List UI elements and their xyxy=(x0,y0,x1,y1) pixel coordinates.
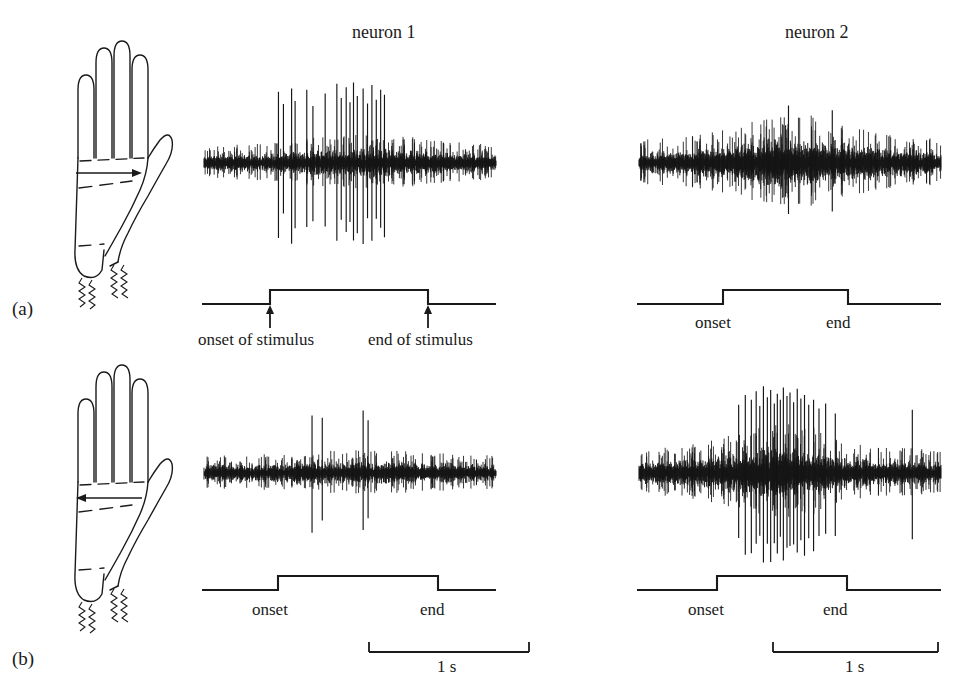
finger-little xyxy=(132,379,148,482)
event-arrows-svg xyxy=(200,304,500,330)
end-label-neuron2-panel-a: end xyxy=(826,313,851,333)
baseline-noise xyxy=(639,141,941,187)
finger-index xyxy=(78,75,94,158)
end-label-neuron2-panel-b: end xyxy=(823,600,848,620)
finger-index xyxy=(78,399,94,482)
wrist-hatching-right xyxy=(111,589,128,622)
stimulus-step-svg xyxy=(635,282,945,312)
scale-bar-svg xyxy=(366,640,541,658)
palm-crease-dashed-lower xyxy=(79,181,132,188)
onset-label-neuron2-panel-a: onset xyxy=(695,313,731,333)
onset-label-neuron1-panel-b: onset xyxy=(252,600,288,620)
scale-label-1s-left: 1 s xyxy=(437,657,456,677)
thumb-outline xyxy=(118,135,172,262)
scale-label-1s-right: 1 s xyxy=(845,657,864,677)
time-scale-bar-panel-b-left xyxy=(366,640,541,658)
spike-trace-neuron2-panel-a xyxy=(635,45,945,285)
end-of-stimulus-label: end of stimulus xyxy=(368,330,473,350)
wrist-hatching-right xyxy=(111,265,128,298)
palm-crease-dashed-lower xyxy=(79,505,132,512)
hand-diagram-panel-b xyxy=(48,362,198,662)
stimulus-step-svg xyxy=(635,568,945,598)
finger-middle xyxy=(96,372,112,482)
spike-trace-neuron2-panel-b xyxy=(635,360,945,570)
spike-trace-neuron1-panel-a xyxy=(200,45,500,285)
hand-outline-svg xyxy=(48,18,198,318)
finger-ring xyxy=(114,365,130,482)
trace-svg xyxy=(635,45,945,285)
end-label-neuron1-panel-b: end xyxy=(420,600,445,620)
column-title-neuron1: neuron 1 xyxy=(352,22,415,43)
onset-of-stimulus-label: onset of stimulus xyxy=(198,330,314,350)
spike-trace-neuron1-panel-b xyxy=(200,360,500,570)
palm-left-edge xyxy=(75,158,104,278)
palm-crease-dashed-wrist xyxy=(79,244,104,246)
trace-svg xyxy=(635,360,945,570)
finger-middle xyxy=(96,48,112,158)
trace-svg xyxy=(200,45,500,285)
stimulus-step-neuron2-panel-b xyxy=(635,568,945,598)
palm-crease-dashed-wrist xyxy=(79,568,104,570)
stimulus-step-neuron1-panel-b xyxy=(200,568,500,598)
wrist-hatching-left xyxy=(79,602,95,633)
panel-label-a: (a) xyxy=(12,298,33,320)
finger-ring xyxy=(114,41,130,158)
neuron-recording-figure: neuron 1 neuron 2 (a) (b) xyxy=(0,0,976,697)
palm-left-edge xyxy=(75,482,104,602)
onset-arrow-icon xyxy=(266,305,274,328)
onset-label-neuron2-panel-b: onset xyxy=(688,600,724,620)
stimulus-direction-arrow xyxy=(76,169,142,177)
time-scale-bar-panel-b-right xyxy=(770,640,950,658)
finger-little xyxy=(132,55,148,158)
column-title-neuron2: neuron 2 xyxy=(785,22,848,43)
hand-diagram-panel-a xyxy=(48,18,198,318)
stimulus-event-arrows-neuron1-panel-a xyxy=(200,304,500,330)
stimulus-direction-arrow xyxy=(76,494,142,502)
panel-label-b: (b) xyxy=(12,648,34,670)
thumb-outline xyxy=(118,459,172,586)
end-arrow-icon xyxy=(424,305,432,328)
scale-bar-svg xyxy=(770,640,950,658)
wrist-hatching-left xyxy=(79,278,95,309)
hand-outline-svg xyxy=(48,362,198,662)
trace-svg xyxy=(200,360,500,570)
stimulus-step-svg xyxy=(200,568,500,598)
stimulus-step-neuron2-panel-a xyxy=(635,282,945,312)
